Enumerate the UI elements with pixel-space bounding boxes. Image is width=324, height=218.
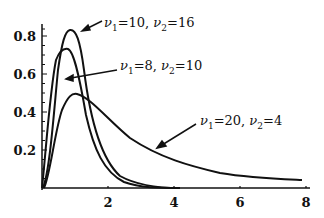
x-tick-2: 2 (103, 195, 112, 210)
arrow-nu1-20 (162, 124, 196, 145)
y-tick-0.4: 0.4 (13, 105, 36, 120)
arrowhead-nu1-10 (82, 25, 90, 31)
y-tick-0.8: 0.8 (13, 29, 36, 44)
x-tick-4: 4 (169, 195, 178, 210)
y-tick-0.2: 0.2 (13, 143, 36, 158)
arrowhead-nu1-8 (66, 75, 73, 81)
curve-nu1-10-nu2-16 (43, 30, 180, 188)
x-tick-8: 8 (301, 195, 310, 210)
arrowhead-nu1-20 (157, 141, 166, 148)
y-tick-0.6: 0.6 (13, 67, 36, 82)
x-tick-6: 6 (235, 195, 244, 210)
annotation-nu1-20-nu2-4: ν1=20, ν2=4 (200, 113, 282, 131)
annotation-nu1-10-nu2-16: ν1=10, ν2=16 (104, 15, 194, 33)
f-distribution-chart: 0.8 0.6 0.4 0.2 2 4 6 8 ν1=10, ν2=16 ν1=… (0, 0, 324, 218)
curve-nu1-20-nu2-4 (44, 94, 302, 188)
annotation-nu1-8-nu2-10: ν1=8, ν2=10 (120, 58, 202, 76)
